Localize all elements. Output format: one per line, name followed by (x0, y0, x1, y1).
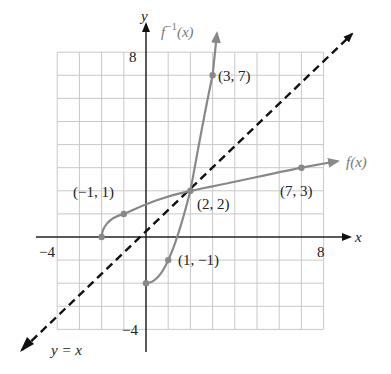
point-label-3-7: (3, 7) (218, 68, 251, 85)
point-label-1-neg1: (1, −1) (178, 252, 219, 269)
tick-x-neg4: −4 (39, 244, 55, 260)
point-label-7-3: (7, 3) (280, 183, 313, 200)
tick-x-8: 8 (317, 244, 325, 260)
tick-y-neg4: −4 (122, 322, 138, 338)
graph-figure: y x f−1(x) f(x) y = x −4 8 8 −4 (3, 7) (… (0, 0, 391, 374)
f-label: f(x) (346, 154, 367, 171)
x-axis-label: x (354, 229, 362, 245)
f-inverse-label: f−1(x) (161, 20, 194, 41)
point-label-2-2: (2, 2) (197, 196, 230, 213)
identity-label: y = x (49, 342, 82, 358)
f-inverse-curve (146, 33, 217, 283)
point-label-neg1-1: (−1, 1) (73, 184, 114, 201)
plot-canvas: y x f−1(x) f(x) y = x −4 8 8 −4 (3, 7) (… (0, 0, 391, 374)
y-axis-label: y (139, 8, 148, 24)
tick-y-8: 8 (129, 49, 137, 65)
